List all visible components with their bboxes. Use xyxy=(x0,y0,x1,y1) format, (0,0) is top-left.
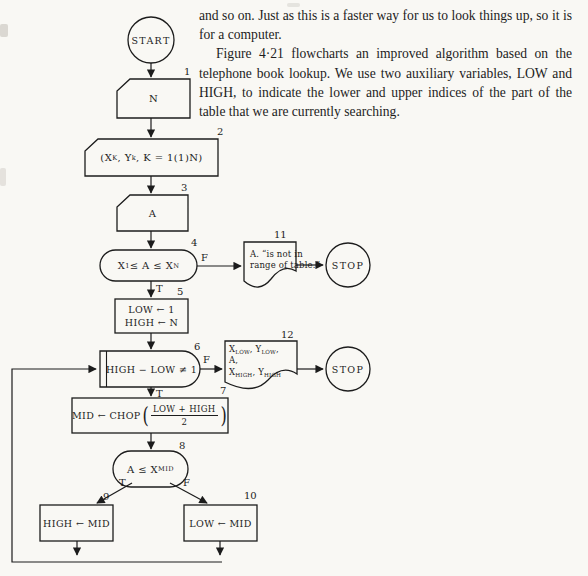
node-10-label: LOW ← MID xyxy=(184,505,257,541)
node-6-false-label: F xyxy=(203,354,210,365)
stop2-terminal-label: STOP xyxy=(326,347,370,391)
node-6-true-label: T xyxy=(156,388,163,399)
node-2-number: 2 xyxy=(217,126,223,137)
fraction-denominator: 2 xyxy=(181,416,187,427)
node-4-false-label: F xyxy=(201,252,208,263)
node-6-number: 6 xyxy=(194,341,200,352)
node-3-label: A xyxy=(117,195,188,231)
node-8-false-label: F xyxy=(183,477,190,488)
open-paren: ( xyxy=(142,404,149,427)
stop1-terminal-label: STOP xyxy=(326,243,370,287)
node-2-label: (XK, Yk, K = 1(1)N) xyxy=(85,139,218,176)
flowchart-canvas xyxy=(0,0,588,576)
node-8-number: 8 xyxy=(179,440,185,451)
node-3-number: 3 xyxy=(181,182,187,193)
node-1-label: N xyxy=(117,79,190,118)
node-7-label: MID ← CHOP(LOW + HIGH2) xyxy=(72,398,228,433)
node-6-label: HIGH − LOW ≠ 1 xyxy=(103,351,200,387)
node-5-label: LOW ← 1HIGH ← N xyxy=(115,299,188,333)
close-paren: ) xyxy=(220,404,227,427)
node-1-number: 1 xyxy=(184,66,190,77)
node-7-fraction: LOW + HIGH2 xyxy=(151,404,218,427)
node-11-label: A. “is not inrange of table.” xyxy=(250,244,296,276)
fraction-numerator: LOW + HIGH xyxy=(151,404,218,416)
node-12-number: 12 xyxy=(281,329,294,340)
node-12-label: XLOW, YLOW,A,XHIGH, YHIGH xyxy=(229,343,297,379)
node-4-number: 4 xyxy=(191,237,197,248)
node-5-number: 5 xyxy=(177,286,183,297)
start-terminal-label: START xyxy=(128,17,174,63)
node-7-prefix: MID ← CHOP xyxy=(72,410,141,421)
node-9-number: 9 xyxy=(103,491,109,502)
node-4-true-label: T xyxy=(156,283,163,294)
node-8-true-label: T xyxy=(119,477,126,488)
node-4-label: X1 ≤ A ≤ XN xyxy=(100,250,197,281)
node-9-label: HIGH ← MID xyxy=(40,505,113,541)
node-10-number: 10 xyxy=(244,490,257,501)
node-7-number: 7 xyxy=(220,385,226,396)
book-page: and so on. Just as this is a faster way … xyxy=(0,0,588,576)
node-11-number: 11 xyxy=(274,229,287,240)
